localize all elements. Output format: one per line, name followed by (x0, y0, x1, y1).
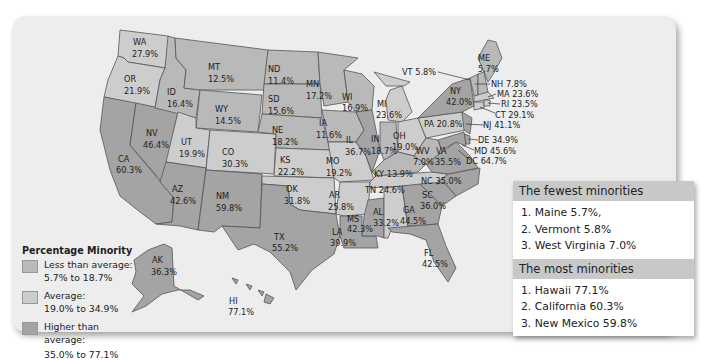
svg-text:ID: ID (167, 87, 176, 97)
list-item: 3. West Virginia 7.0% (521, 238, 686, 255)
svg-text:GA: GA (403, 205, 415, 215)
svg-text:VA: VA (436, 146, 447, 156)
svg-text:46.4%: 46.4% (143, 140, 169, 150)
legend-item-average: Average: 19.0% to 34.9% (22, 290, 142, 315)
svg-text:MA 23.6%: MA 23.6% (497, 89, 539, 99)
svg-text:16.9%: 16.9% (342, 103, 368, 113)
svg-text:59.8%: 59.8% (216, 203, 242, 213)
svg-text:AZ: AZ (172, 184, 184, 194)
svg-text:42.5%: 42.5% (422, 259, 448, 269)
svg-text:44.5%: 44.5% (400, 216, 426, 226)
svg-text:14.5%: 14.5% (215, 116, 241, 126)
svg-text:TX: TX (273, 232, 285, 242)
svg-text:ME: ME (478, 53, 490, 63)
state-HI[interactable] (232, 278, 274, 304)
svg-text:OH: OH (393, 131, 406, 141)
list-item: 1. Hawaii 77.1% (521, 283, 686, 300)
svg-text:AK: AK (152, 255, 164, 265)
svg-text:IN: IN (371, 134, 380, 144)
state-NM[interactable] (198, 170, 262, 232)
state-AK[interactable] (132, 244, 204, 312)
svg-text:NY: NY (450, 86, 462, 96)
svg-text:HI: HI (229, 296, 238, 306)
legend-range: 19.0% to 34.9% (44, 303, 118, 316)
svg-text:30.3%: 30.3% (222, 159, 248, 169)
legend-label: Less than average: (44, 259, 133, 272)
svg-text:MD 45.6%: MD 45.6% (474, 146, 516, 156)
svg-text:31.8%: 31.8% (284, 196, 310, 206)
legend-item-high: Higher than average: 35.0% to 77.1% (22, 321, 142, 360)
svg-text:11.6%: 11.6% (316, 130, 342, 140)
svg-text:AL: AL (373, 207, 384, 217)
svg-text:15.6%: 15.6% (268, 106, 294, 116)
svg-text:17.2%: 17.2% (306, 91, 332, 101)
svg-text:11.4%: 11.4% (268, 76, 294, 86)
svg-text:MT: MT (208, 62, 221, 72)
list-item: 2. Vermont 5.8% (521, 222, 686, 239)
list-item: 3. New Mexico 59.8% (521, 316, 686, 333)
list-item: 2. California 60.3% (521, 299, 686, 316)
svg-text:OR: OR (124, 74, 136, 84)
svg-text:SD: SD (268, 94, 280, 104)
state-CT[interactable] (474, 102, 484, 110)
svg-text:39.9%: 39.9% (330, 238, 356, 248)
svg-text:WV: WV (416, 146, 430, 156)
svg-text:MO: MO (326, 156, 340, 166)
svg-text:12.5%: 12.5% (208, 74, 234, 84)
svg-text:77.1%: 77.1% (228, 307, 254, 317)
svg-text:NH 7.8%: NH 7.8% (491, 79, 527, 89)
rankings-panel: The fewest minorities 1. Maine 5.7%, 2. … (513, 181, 694, 336)
legend-title: Percentage Minority (22, 245, 142, 256)
svg-text:CT 29.1%: CT 29.1% (495, 110, 535, 120)
svg-text:42.6%: 42.6% (170, 196, 196, 206)
fewest-list: 1. Maine 5.7%, 2. Vermont 5.8% 3. West V… (513, 201, 694, 259)
svg-text:MS: MS (347, 214, 359, 224)
svg-text:19.2%: 19.2% (326, 168, 352, 178)
svg-text:42.0%: 42.0% (446, 97, 472, 107)
svg-text:RI 23.5%: RI 23.5% (501, 99, 538, 109)
svg-text:NM: NM (216, 191, 229, 201)
svg-text:TN 24.6%: TN 24.6% (364, 185, 405, 195)
svg-text:55.2%: 55.2% (272, 243, 298, 253)
list-item: 1. Maine 5.7%, (521, 205, 686, 222)
svg-text:UT: UT (181, 137, 193, 147)
state-FL[interactable] (388, 224, 456, 282)
svg-text:CA: CA (118, 154, 130, 164)
most-list: 1. Hawaii 77.1% 2. California 60.3% 3. N… (513, 279, 694, 337)
svg-text:CO: CO (222, 147, 234, 157)
svg-text:21.9%: 21.9% (124, 86, 150, 96)
svg-text:SC: SC (422, 190, 433, 200)
map-legend: Percentage Minority Less than average: 5… (22, 245, 142, 360)
svg-text:22.2%: 22.2% (278, 167, 304, 177)
svg-text:FL: FL (424, 248, 434, 258)
svg-text:36.7%: 36.7% (345, 147, 371, 157)
svg-text:MI: MI (377, 99, 386, 109)
svg-text:KY 13.9%: KY 13.9% (374, 169, 413, 179)
svg-text:IL: IL (346, 135, 353, 145)
svg-text:33.2%: 33.2% (373, 218, 399, 228)
svg-text:NV: NV (146, 128, 158, 138)
svg-text:16.4%: 16.4% (167, 99, 193, 109)
svg-text:18.2%: 18.2% (272, 137, 298, 147)
svg-text:60.3%: 60.3% (116, 165, 142, 175)
svg-text:7.0%: 7.0% (413, 157, 434, 167)
svg-text:NC 35.0%: NC 35.0% (421, 176, 462, 186)
svg-text:36.3%: 36.3% (151, 267, 177, 277)
fewest-header: The fewest minorities (513, 181, 694, 201)
svg-text:42.3%: 42.3% (347, 224, 373, 234)
svg-text:NJ 41.1%: NJ 41.1% (483, 120, 520, 130)
most-header: The most minorities (513, 259, 694, 279)
svg-text:23.6%: 23.6% (376, 110, 402, 120)
svg-text:19.0%: 19.0% (392, 142, 418, 152)
svg-text:25.8%: 25.8% (328, 202, 354, 212)
svg-text:35.5%: 35.5% (435, 157, 461, 167)
svg-text:AR: AR (329, 190, 341, 200)
svg-text:ND: ND (268, 64, 280, 74)
svg-text:5.7%: 5.7% (478, 64, 499, 74)
svg-text:LA: LA (332, 227, 343, 237)
svg-text:MN: MN (306, 79, 319, 89)
legend-swatch-average (22, 291, 38, 304)
svg-text:DE 34.9%: DE 34.9% (478, 135, 518, 145)
svg-text:WA: WA (133, 37, 147, 47)
legend-item-low: Less than average: 5.7% to 18.7% (22, 259, 142, 284)
